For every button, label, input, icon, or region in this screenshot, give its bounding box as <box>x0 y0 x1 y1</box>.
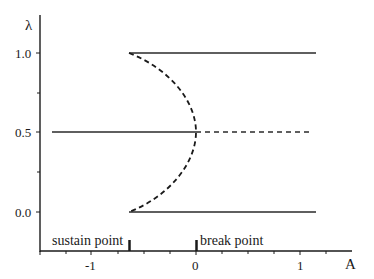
bifurcation-diagram: λ 1.0 0.5 0.0 -1 0 1 A sustain point bre… <box>0 0 374 279</box>
break-point-label: break point <box>200 234 263 248</box>
y-tick-label-0-5: 0.5 <box>15 126 31 139</box>
x-tick-label-neg1: -1 <box>85 259 96 272</box>
x-axis-label: A <box>345 257 356 272</box>
x-axis <box>40 251 352 255</box>
y-tick-label-1-0: 1.0 <box>15 47 31 60</box>
x-tick-label-0: 0 <box>192 259 199 272</box>
y-axis-label: λ <box>25 18 32 33</box>
sustain-point-label: sustain point <box>52 234 123 248</box>
y-axis <box>36 15 40 252</box>
y-tick-label-0-0: 0.0 <box>15 206 31 219</box>
x-tick-label-1: 1 <box>297 259 304 272</box>
